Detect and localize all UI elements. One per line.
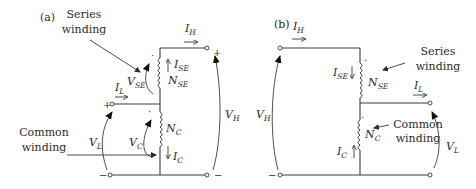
dot-series-b: · — [364, 55, 367, 66]
ih-label-b: IH — [292, 20, 304, 35]
terminal-high-a — [205, 46, 209, 50]
terminal-high-b — [278, 46, 282, 50]
series-winding-pointer-a — [90, 40, 140, 72]
panel-b: (b) IH · ISE NSE Series winding IL · NC … — [256, 18, 460, 181]
vh-label-b: VH — [256, 108, 271, 123]
nc-label-b: NC — [364, 128, 381, 143]
vc-arrow-a — [144, 120, 153, 157]
common-winding-label-a-line1: Common — [19, 126, 69, 139]
vse-label-a: VSE — [127, 75, 146, 90]
series-winding-label-a-line1: Series — [67, 8, 102, 21]
dot-common-a: · — [148, 106, 151, 117]
vh-arrow-a — [213, 56, 220, 170]
series-coil-a — [158, 58, 160, 88]
series-winding-label-b-line2: winding — [416, 60, 461, 73]
ic-label-b: IC — [336, 145, 347, 160]
plus-low-a: + — [103, 99, 111, 110]
vl-label-a: VL — [89, 136, 102, 151]
terminal-low-b — [428, 101, 432, 105]
minus-right-a: − — [214, 170, 222, 181]
dot-series-a: · — [151, 50, 154, 61]
ih-label-a: IH — [184, 22, 196, 37]
il-label-b: IL — [413, 79, 423, 94]
vse-arrow-a — [146, 64, 153, 94]
series-winding-label-a-line2: winding — [62, 23, 107, 36]
nse-label-b: NSE — [367, 76, 389, 91]
terminal-bottom-left-b — [278, 173, 282, 177]
panel-b-label: (b) — [274, 18, 290, 31]
vh-label-a: VH — [225, 108, 240, 123]
autotransformer-diagram: (a) Series winding + IH · ISE NSE VSE + … — [0, 0, 476, 189]
vh-arrow-b — [272, 56, 280, 170]
common-winding-pointer-b — [374, 125, 389, 128]
common-coil-a — [160, 112, 162, 147]
vl-label-b: VL — [446, 140, 459, 155]
series-coil-b — [360, 63, 362, 98]
series-winding-pointer-b — [383, 63, 405, 70]
dot-common-b: · — [361, 112, 364, 123]
panel-a-label: (a) — [40, 11, 55, 24]
ise-label-a: ISE — [173, 58, 189, 73]
common-winding-label-a-line2: winding — [22, 141, 67, 154]
terminal-bottom-right-a — [205, 173, 209, 177]
common-coil-b — [358, 120, 360, 150]
terminal-bottom-left-a — [108, 173, 112, 177]
ise-label-b: ISE — [332, 66, 348, 81]
il-label-a: IL — [114, 81, 124, 96]
common-winding-label-b-line2: winding — [396, 132, 441, 145]
nse-label-a: NSE — [167, 74, 189, 89]
minus-left-a: − — [99, 170, 107, 181]
vc-label-a: VC — [129, 136, 143, 151]
ic-label-a: IC — [172, 150, 183, 165]
minus-left-b: − — [268, 170, 276, 181]
plus-high-a: + — [213, 47, 221, 58]
nc-label-a: NC — [165, 122, 182, 137]
terminal-bottom-right-b — [428, 173, 432, 177]
series-winding-label-b-line1: Series — [421, 45, 456, 58]
vl-arrow-a — [102, 112, 112, 170]
panel-a: (a) Series winding + IH · ISE NSE VSE + … — [19, 8, 240, 181]
